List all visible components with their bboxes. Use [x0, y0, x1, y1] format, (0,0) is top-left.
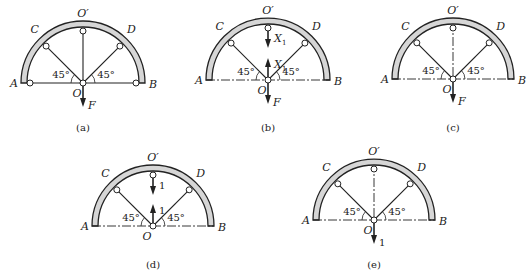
point-label-A: A: [80, 220, 89, 233]
point-label-B: B: [217, 221, 226, 234]
point-label-B: B: [438, 215, 447, 228]
point-label-D: D: [126, 23, 136, 36]
point-label-O: O: [442, 83, 451, 96]
point-label-D: D: [416, 161, 426, 174]
figure-b: 45°45°X1X1FABCDO′O(b): [194, 4, 342, 133]
angle-arc-left: [441, 71, 445, 79]
force-label: F: [87, 99, 96, 112]
figure-caption-e: (e): [367, 259, 381, 270]
angle-arc-right: [91, 75, 95, 83]
point-label-C: C: [401, 20, 410, 33]
redundant-force-top-head: [150, 186, 156, 195]
angle-label-left: 45°: [52, 69, 70, 80]
point-label-C: C: [215, 20, 224, 33]
hinge-node-O: [80, 80, 86, 86]
hinge-node-D: [186, 187, 192, 193]
hinge-node-A: [27, 80, 33, 86]
redundant-force-bottom-label: 1: [159, 205, 165, 216]
angle-label-left: 45°: [422, 65, 440, 76]
angle-arc-right: [161, 218, 165, 226]
angle-arc-left: [71, 75, 75, 83]
hinge-node-O: [450, 76, 456, 82]
force-label: 1: [379, 237, 385, 248]
hinge-node-Oprime: [150, 172, 156, 178]
hinge-node-Oprime: [80, 28, 86, 34]
hinge-node-Oprime: [450, 25, 456, 31]
point-label-Oprime: O′: [368, 145, 380, 158]
point-label-A: A: [194, 74, 203, 87]
angle-label-right: 45°: [167, 212, 185, 223]
point-label-Oprime: O′: [262, 4, 274, 17]
angle-label-right: 45°: [97, 69, 115, 80]
angle-label-left: 45°: [237, 66, 255, 77]
redundant-force-bottom-head: [150, 204, 156, 213]
point-label-Oprime: O′: [77, 7, 89, 20]
figure-caption-b: (b): [261, 122, 275, 133]
point-label-D: D: [195, 167, 205, 180]
point-label-O: O: [363, 224, 372, 237]
angle-label-left: 45°: [122, 212, 140, 223]
point-label-C: C: [101, 167, 110, 180]
truss-diagram-canvas: 45°45°FABCDO′O(a)45°45°X1X1FABCDO′O(b)45…: [0, 0, 529, 279]
point-label-D: D: [311, 20, 321, 33]
hinge-node-D: [407, 181, 413, 187]
angle-label-right: 45°: [467, 65, 485, 76]
angle-label-left: 45°: [343, 206, 361, 217]
redundant-force-top-subscript: 1: [282, 39, 286, 47]
figure-caption-d: (d): [146, 259, 160, 270]
redundant-force-top-label: 1: [159, 180, 165, 191]
point-label-B: B: [517, 74, 526, 87]
angle-label-right: 45°: [388, 206, 406, 217]
hinge-node-Oprime: [371, 166, 377, 172]
angle-arc-left: [256, 72, 260, 80]
hinge-node-Oprime: [265, 25, 271, 31]
point-label-B: B: [148, 78, 157, 91]
redundant-force-bottom-subscript: 1: [282, 65, 286, 73]
redundant-force-top-head: [265, 39, 271, 48]
point-label-A: A: [301, 214, 310, 227]
figure-caption-c: (c): [446, 122, 460, 133]
hinge-node-C: [335, 181, 341, 187]
point-label-O: O: [257, 84, 266, 97]
point-label-O: O: [72, 87, 81, 100]
hinge-node-O: [150, 223, 156, 229]
figure-a: 45°45°FABCDO′O(a): [9, 7, 157, 133]
hinge-node-B: [133, 80, 139, 86]
point-label-D: D: [495, 20, 505, 33]
angle-arc-right: [276, 72, 280, 80]
hinge-node-O: [265, 77, 271, 83]
hinge-node-O: [371, 217, 377, 223]
hinge-node-D: [486, 40, 492, 46]
point-label-C: C: [322, 161, 331, 174]
angle-arc-left: [362, 212, 366, 220]
force-label: F: [272, 96, 281, 109]
hinge-node-C: [114, 187, 120, 193]
point-label-O: O: [142, 230, 151, 243]
angle-arc-left: [141, 218, 145, 226]
hinge-node-C: [228, 40, 234, 46]
figure-caption-a: (a): [76, 122, 90, 133]
redundant-force-bottom-head: [265, 58, 271, 67]
angle-arc-right: [461, 71, 465, 79]
figure-c: 45°45°FABCDO′O(c): [380, 4, 526, 133]
hinge-node-C: [414, 40, 420, 46]
point-label-Oprime: O′: [447, 4, 459, 17]
hinge-node-D: [302, 40, 308, 46]
point-label-A: A: [9, 77, 18, 90]
point-label-A: A: [380, 73, 389, 86]
point-label-Oprime: O′: [147, 151, 159, 164]
hinge-node-D: [117, 43, 123, 49]
force-label: F: [457, 95, 466, 108]
point-label-B: B: [333, 75, 342, 88]
figure-e: 45°45°1ABCDO′O(e): [301, 145, 447, 270]
hinge-node-C: [43, 43, 49, 49]
figure-d: 45°45°11ABCDO′O(d): [80, 151, 226, 270]
point-label-C: C: [30, 23, 39, 36]
angle-arc-right: [382, 212, 386, 220]
